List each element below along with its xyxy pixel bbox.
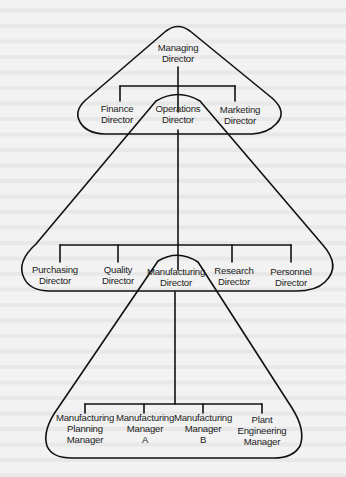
node-marketing-director: Marketing Director xyxy=(220,104,260,126)
node-managing-director: Managing Director xyxy=(158,42,199,64)
node-manufacturing-director: Manufacturing Director xyxy=(147,266,205,288)
node-finance-director: Finance Director xyxy=(101,103,134,125)
node-personnel-director: Personnel Director xyxy=(270,266,311,288)
node-manufacturing-planning-manager: Manufacturing Planning Manager xyxy=(56,412,114,445)
node-operations-director: Operations Director xyxy=(156,103,201,125)
node-plant-engineering-manager: Plant Engineering Manager xyxy=(237,414,286,447)
org-chart-diagram: Managing Director Finance Director Opera… xyxy=(0,0,346,477)
org-chart-lines xyxy=(0,0,346,477)
node-manufacturing-manager-b: Manufacturing Manager B xyxy=(174,412,232,445)
node-manufacturing-manager-a: Manufacturing Manager A xyxy=(116,412,174,445)
node-research-director: Research Director xyxy=(214,265,253,287)
node-quality-director: Quality Director xyxy=(102,264,134,286)
node-purchasing-director: Purchasing Director xyxy=(32,264,78,286)
